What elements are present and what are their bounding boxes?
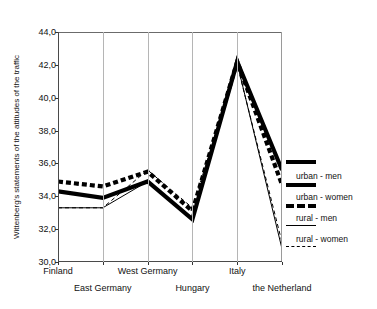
y-tickmark-4 xyxy=(55,131,58,132)
gridline-3 xyxy=(192,32,193,262)
y-tick-4: 38,0 xyxy=(22,126,56,136)
legend-item-urban-women[interactable]: urban - women xyxy=(286,193,376,214)
legend-item-rural-women[interactable]: rural - women xyxy=(286,235,376,256)
legend-label-1: urban - women xyxy=(296,192,353,202)
y-tick-6: 42,0 xyxy=(22,60,56,70)
x-label-5: the Netherland xyxy=(252,283,311,293)
y-tickmark-7 xyxy=(55,32,58,33)
y-tick-1: 32,0 xyxy=(22,224,56,234)
legend-swatch-urban-men-top xyxy=(286,160,316,164)
x-tickmark-2 xyxy=(148,262,149,265)
x-label-1: East Germany xyxy=(74,283,132,293)
y-axis-tick-labels: 30,032,034,036,038,040,042,044,0 xyxy=(16,0,56,309)
legend-item-rural-men[interactable]: rural - men xyxy=(286,214,376,235)
series-urban-men xyxy=(58,62,282,220)
y-tickmark-2 xyxy=(55,196,58,197)
chart-legend: urban - menurban - womenrural - menrural… xyxy=(286,172,376,256)
gridline-4 xyxy=(237,32,238,262)
x-label-2: West Germany xyxy=(118,266,178,276)
legend-label-3: rural - women xyxy=(296,234,348,244)
x-tickmark-3 xyxy=(192,262,193,265)
plot-border-left xyxy=(58,32,59,262)
plot-area xyxy=(58,32,282,262)
y-tick-5: 40,0 xyxy=(22,93,56,103)
y-tick-2: 34,0 xyxy=(22,191,56,201)
gridline-2 xyxy=(148,32,149,262)
gridline-1 xyxy=(103,32,104,262)
plot-border-bottom xyxy=(58,261,282,262)
legend-item-urban-men[interactable]: urban - men xyxy=(286,172,376,193)
legend-swatch-1 xyxy=(286,204,316,208)
legend-swatch-3 xyxy=(286,246,316,247)
legend-swatch-2 xyxy=(286,225,316,226)
plot-border-top xyxy=(58,32,282,33)
series-lines xyxy=(58,32,282,262)
plot-border-right xyxy=(281,32,282,262)
y-tick-7: 44,0 xyxy=(22,27,56,37)
chart-figure: Wittenberg's statements of the attitudes… xyxy=(0,0,377,309)
x-tickmark-0 xyxy=(58,262,59,265)
legend-label-2: rural - men xyxy=(296,213,337,223)
x-label-0: Finland xyxy=(43,266,73,276)
y-tickmark-5 xyxy=(55,98,58,99)
legend-swatch-0 xyxy=(286,183,316,187)
y-tickmark-6 xyxy=(55,65,58,66)
x-label-4: Italy xyxy=(229,266,246,276)
x-label-3: Hungary xyxy=(175,283,209,293)
x-tickmark-5 xyxy=(282,262,283,265)
y-tick-3: 36,0 xyxy=(22,158,56,168)
y-tickmark-3 xyxy=(55,163,58,164)
x-tickmark-4 xyxy=(237,262,238,265)
y-tickmark-1 xyxy=(55,229,58,230)
x-tickmark-1 xyxy=(103,262,104,265)
legend-label-0: urban - men xyxy=(296,171,342,181)
